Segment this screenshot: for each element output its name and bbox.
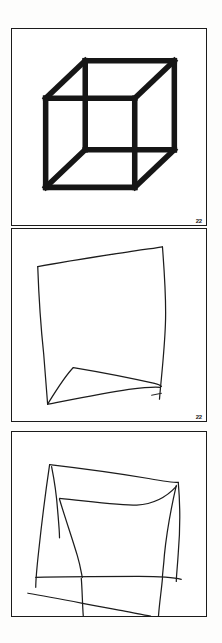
- sketch3-mid-horizontal-edge: [36, 576, 182, 579]
- sketch-inner-fold-right: [73, 368, 161, 387]
- sketch-inner-fold-left: [48, 368, 74, 405]
- sketch-top-edge: [38, 247, 163, 267]
- sketch-bottom-edge: [48, 387, 161, 404]
- sketch-right-edge: [159, 247, 165, 399]
- sketch3-top-edge: [50, 465, 179, 483]
- figure-root: 22 22: [0, 0, 222, 643]
- cube-edge-connect-bottom-left: [46, 150, 86, 188]
- sketch3-right-outer-edge: [176, 482, 179, 581]
- panel-model-label: 22: [196, 218, 202, 224]
- necker-cube-drawing: [12, 29, 206, 225]
- panel-copy-one-label: 22: [196, 414, 202, 420]
- sketch3-lower-left-vertical-edge: [81, 578, 83, 616]
- cube-edge-connect-top-left: [46, 61, 86, 99]
- sketch3-center-vertical-edge: [60, 499, 83, 577]
- sketch-left-edge: [38, 267, 48, 405]
- panel-copy-three: [11, 431, 207, 617]
- sketch3-left-outer-edge: [36, 465, 50, 588]
- sketch3-lower-diagonal-edge: [28, 593, 151, 616]
- hand-drawn-copy-one-drawing: [12, 229, 206, 421]
- cube-edge-connect-bottom-right: [135, 150, 175, 188]
- sketch3-inner-top-edge: [60, 486, 177, 505]
- hand-drawn-copy-three-drawing: [12, 432, 206, 616]
- cube-edge-connect-top-right: [135, 61, 175, 99]
- panel-copy-one: 22: [11, 228, 207, 422]
- sketch3-left-inner-edge: [52, 467, 60, 538]
- sketch3-lower-right-vertical-edge: [158, 578, 162, 616]
- sketch3-right-inner-edge: [162, 485, 176, 577]
- panel-model-necker-cube: 22: [11, 28, 207, 226]
